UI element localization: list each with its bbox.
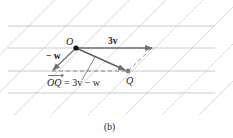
label-neg-w: − w <box>46 51 61 61</box>
equation-rhs: = 3v − w <box>64 77 101 88</box>
equation-lhs: OQ <box>47 77 62 88</box>
vector-diagram: O Q 3v − w OQ = 3v − w (b) <box>0 0 233 138</box>
label-q: Q <box>126 75 134 86</box>
vector-oq <box>76 48 125 70</box>
equation-oq: OQ = 3v − w <box>47 74 101 88</box>
figure-caption: (b) <box>104 122 115 133</box>
diagonal-grid-lines <box>0 0 233 115</box>
label-o: O <box>66 36 73 47</box>
point-o <box>73 45 78 50</box>
point-q <box>126 69 131 74</box>
label-3v: 3v <box>108 36 118 46</box>
